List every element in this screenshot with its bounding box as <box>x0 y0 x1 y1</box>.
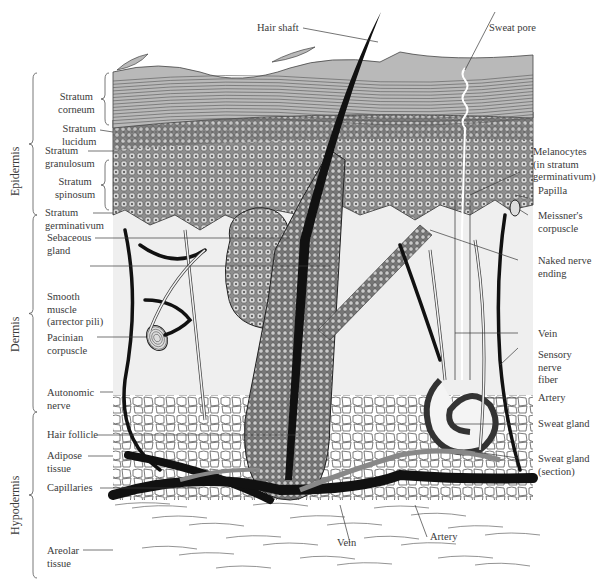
label-sweat-pore: Sweat pore <box>489 22 536 35</box>
areolar-fiber <box>438 556 493 558</box>
skin-flake <box>272 47 315 62</box>
label-sweat-gland: Sweat gland <box>538 418 590 431</box>
meissner-corpuscle-shape <box>510 200 520 216</box>
areolar-fiber <box>152 516 207 518</box>
label-hair-shaft: Hair shaft <box>257 22 299 35</box>
areolar-fiber <box>364 536 419 539</box>
label-stratum-corneum: Stratumcorneum <box>58 91 95 116</box>
label-autonomic-nerve: Autonomicnerve <box>47 387 94 412</box>
leader-line <box>100 130 113 132</box>
label-pacinian-corpuscle: Paciniancorpuscle <box>47 332 87 357</box>
corneum-brace <box>101 73 109 125</box>
areolar-fiber <box>189 523 244 526</box>
label-smooth-muscle: Smoothmuscle(arrector pili) <box>47 291 103 329</box>
label-line: Capillaries <box>47 482 93 495</box>
label-hair-follicle: Hair follicle <box>47 429 98 442</box>
label-line: Hair shaft <box>257 22 299 35</box>
leader-line <box>303 28 378 42</box>
epidermis-brace <box>29 73 37 215</box>
areolar-fiber <box>216 566 271 568</box>
label-line: germinativum <box>45 220 104 233</box>
skin-diagram: StratumcorneumStratumlucidumStratumgranu… <box>0 0 610 583</box>
label-line: Sweat pore <box>489 22 536 35</box>
label-line: Naked nerve <box>538 255 591 268</box>
label-line: muscle <box>47 304 103 317</box>
label-line: Sweat gland <box>538 418 590 431</box>
label-line: granulosum <box>45 158 95 171</box>
label-stratum-germinativum: Stratumgerminativum <box>45 207 104 232</box>
label-capillaries: Capillaries <box>47 482 93 495</box>
label-sebaceous-gland: Sebaceousgland <box>47 232 91 257</box>
label-line: gland <box>47 245 91 258</box>
spinosum-brace <box>101 160 109 210</box>
areolar-fiber <box>290 516 345 518</box>
label-artery-bottom: Artery <box>430 531 457 544</box>
label-line: nerve <box>47 400 94 413</box>
label-line: Stratum <box>55 176 95 189</box>
areolar-fiber <box>337 563 392 565</box>
label-meissners-corpuscle: Meissner'scorpuscle <box>538 210 582 235</box>
dermis-brace <box>29 215 37 412</box>
label-line: Stratum <box>62 123 96 136</box>
areolar-fiber <box>132 506 187 508</box>
label-line: (in stratum <box>533 159 595 172</box>
label-line: fiber <box>538 374 572 387</box>
region-label-epidermis: Epidermis <box>8 147 23 196</box>
label-line: Smooth <box>47 291 103 304</box>
label-adipose-tissue: Adiposetissue <box>47 450 82 475</box>
areolar-fiber <box>142 546 197 549</box>
label-line: Papilla <box>538 185 567 198</box>
areolar-fiber <box>475 563 530 566</box>
label-line: Adipose <box>47 450 82 463</box>
areolar-fiber <box>374 506 429 508</box>
label-line: Vein <box>538 328 557 341</box>
label-line: Stratum <box>45 207 104 220</box>
label-line: Melanocytes <box>533 146 595 159</box>
label-line: Areolar <box>47 545 79 558</box>
label-sensory-nerve-fiber: Sensorynervefiber <box>538 349 572 387</box>
label-line: Stratum <box>58 91 95 104</box>
label-melanocytes: Melanocytes(in stratumgerminativum) <box>533 146 595 184</box>
label-line: Artery <box>538 392 565 405</box>
label-line: Artery <box>430 531 457 544</box>
label-vein-bottom: Vein <box>337 537 356 550</box>
region-label-hypodermis: Hypodermis <box>8 476 23 535</box>
label-papilla: Papilla <box>538 185 567 198</box>
label-stratum-granulosum: Stratumgranulosum <box>45 145 95 170</box>
label-line: Sensory <box>538 349 572 362</box>
leader-line <box>415 505 427 537</box>
areolar-fiber <box>179 553 234 555</box>
label-line: corpuscle <box>538 223 582 236</box>
label-line: Stratum <box>45 145 95 158</box>
label-line: spinosum <box>55 189 95 202</box>
areolar-fiber <box>226 536 281 538</box>
label-line: Hair follicle <box>47 429 98 442</box>
label-line: corpuscle <box>47 345 87 358</box>
label-naked-nerve-ending: Naked nerveending <box>538 255 591 280</box>
label-vein-right: Vein <box>538 328 557 341</box>
areolar-fiber <box>485 533 540 535</box>
hypodermis-brace <box>29 412 37 578</box>
label-line: (arrector pili) <box>47 316 103 329</box>
label-line: Vein <box>337 537 356 550</box>
areolar-fiber <box>253 503 308 506</box>
label-line: Meissner's <box>538 210 582 223</box>
region-label-dermis: Dermis <box>8 317 23 352</box>
label-line: corneum <box>58 104 95 117</box>
label-line: (section) <box>538 466 590 479</box>
label-line: tissue <box>47 558 79 571</box>
label-line: Sweat gland <box>538 453 590 466</box>
areolar-fiber <box>327 523 382 525</box>
label-line: Sebaceous <box>47 232 91 245</box>
label-sweat-gland-section: Sweat gland(section) <box>538 453 590 478</box>
label-line: Autonomic <box>47 387 94 400</box>
label-line: tissue <box>47 463 82 476</box>
label-stratum-spinosum: Stratumspinosum <box>55 176 95 201</box>
label-line: Pacinian <box>47 332 87 345</box>
label-line: germinativum) <box>533 171 595 184</box>
label-line: ending <box>538 268 591 281</box>
label-artery-right: Artery <box>538 392 565 405</box>
label-areolar-tissue: Areolartissue <box>47 545 79 570</box>
label-line: nerve <box>538 362 572 375</box>
areolar-fiber <box>263 543 318 545</box>
